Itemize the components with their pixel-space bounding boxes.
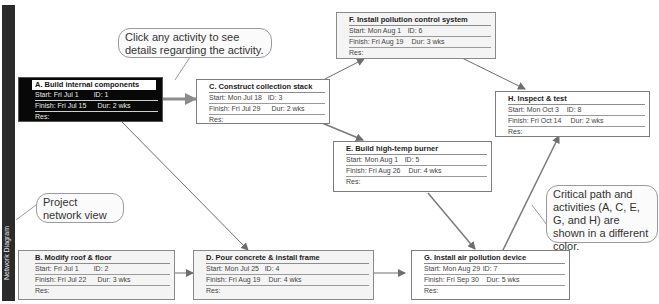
link-c-e — [322, 123, 363, 140]
activity-node-b[interactable]: B. Modify roof & floor Start: Fri Jul 1 … — [18, 250, 175, 300]
activity-start-row: Start: Mon Jul 18 ID: 3 — [209, 93, 325, 104]
activity-finish-row: Finish: Fri Jul 22 Dur: 3 wks — [35, 275, 170, 286]
activity-finish-row: Finish: Fri Aug 19 Dur: 3 wks — [349, 37, 491, 48]
activity-finish-row: Finish: Fri Sep 30 Dur: 5 wks — [424, 275, 565, 286]
activity-start-row: Start: Mon Aug 29 ID: 7 — [424, 264, 565, 275]
link-e-g — [428, 193, 475, 249]
activity-res-row: Res: — [35, 286, 170, 296]
activity-res-row: Res: — [424, 286, 565, 296]
activity-res-row: Res: — [349, 48, 491, 58]
activity-finish-row: Finish: Fri Aug 19 Dur: 4 wks — [206, 275, 369, 286]
activity-start-row: Start: Mon Aug 1 ID: 6 — [349, 26, 491, 37]
activity-res-row: Res: — [346, 177, 487, 187]
activity-title: C. Construct collection stack — [209, 82, 325, 93]
link-c-f — [325, 59, 364, 79]
activity-start-row: Start: Mon Aug 1 ID: 5 — [346, 155, 487, 166]
activity-finish-row: Finish: Fri Jul 15 Dur: 2 wks — [35, 101, 158, 112]
activity-node-d[interactable]: D. Pour concrete & install frame Start: … — [193, 250, 374, 300]
activity-node-g[interactable]: G. Install air pollution device Start: M… — [411, 250, 570, 300]
activity-title: H. Inspect & test — [508, 94, 645, 105]
activity-title: G. Install air pollution device — [424, 253, 565, 264]
activity-title: E. Build high-temp burner — [346, 144, 487, 155]
link-a-d — [122, 122, 248, 250]
activity-res-row: Res: — [209, 115, 325, 125]
activity-start-row: Start: Fri Jul 1 ID: 1 — [35, 90, 158, 101]
activity-finish-row: Finish: Fri Aug 26 Dur: 4 wks — [346, 166, 487, 177]
activity-title: B. Modify roof & floor — [35, 253, 170, 264]
activity-finish-row: Finish: Fri Jul 29 Dur: 2 wks — [209, 104, 325, 115]
link-f-h — [460, 57, 525, 89]
activity-start-row: Start: Mon Jul 25 ID: 4 — [206, 264, 369, 275]
callout-critical-path: Critical path and activities (A, C, E, G… — [546, 185, 658, 243]
activity-node-f[interactable]: F. Install pollution control system Star… — [336, 12, 496, 59]
activity-node-a[interactable]: A. Build internal components Start: Fri … — [18, 77, 163, 122]
activity-title: D. Pour concrete & install frame — [206, 253, 369, 264]
activity-title: F. Install pollution control system — [349, 15, 491, 26]
activity-res-row: Res: — [508, 127, 645, 137]
activity-node-h[interactable]: H. Inspect & test Start: Mon Oct 3 ID: 8… — [495, 91, 650, 137]
callout-click-hint: Click any activity to see details regard… — [118, 28, 272, 58]
activity-start-row: Start: Mon Oct 3 ID: 8 — [508, 105, 645, 116]
activity-res-row: Res: — [35, 112, 158, 122]
activity-finish-row: Finish: Fri Oct 14 Dur: 2 wks — [508, 116, 645, 127]
activity-node-c[interactable]: C. Construct collection stack Start: Mon… — [196, 79, 330, 124]
activity-node-e[interactable]: E. Build high-temp burner Start: Mon Aug… — [333, 141, 492, 192]
activity-title: A. Build internal components — [32, 80, 156, 90]
activity-res-row: Res: — [206, 286, 369, 296]
callout-network-view: Project network view — [36, 193, 124, 223]
activity-start-row: Start: Fri Jul 1 ID: 2 — [35, 264, 170, 275]
